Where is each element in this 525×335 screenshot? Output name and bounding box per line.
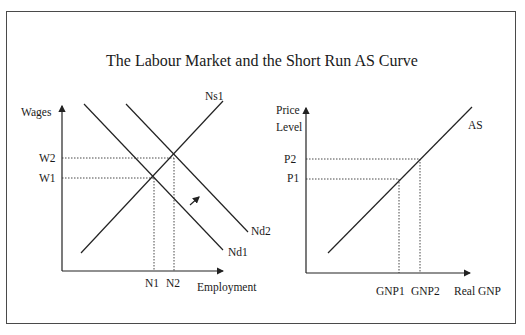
diagram-canvas: The Labour Market and the Short Run AS C… bbox=[0, 0, 525, 335]
diagram-title: The Labour Market and the Short Run AS C… bbox=[106, 52, 418, 69]
nd2-label: Nd2 bbox=[251, 225, 271, 237]
short-run-as-chart: Price Level Real GNP P2 P1 GNP1 GNP2 AS bbox=[276, 104, 501, 297]
wages-axis-label: Wages bbox=[21, 106, 52, 119]
n2-label: N2 bbox=[166, 277, 180, 289]
w2-label: W2 bbox=[39, 152, 56, 164]
price-axis-label-line1: Price bbox=[276, 104, 300, 116]
ns1-label: Ns1 bbox=[205, 90, 224, 102]
as-curve bbox=[328, 107, 472, 253]
gnp1-label: GNP1 bbox=[376, 285, 405, 297]
p1-label: P1 bbox=[287, 172, 299, 184]
demand-shift-arrow-icon bbox=[190, 197, 199, 205]
real-gnp-axis-label: Real GNP bbox=[454, 285, 501, 297]
nd1-label: Nd1 bbox=[228, 246, 248, 258]
as-label: AS bbox=[468, 119, 483, 131]
p2-label: P2 bbox=[284, 153, 296, 165]
gnp2-label: GNP2 bbox=[411, 285, 440, 297]
employment-axis-label: Employment bbox=[197, 281, 257, 294]
price-axis-label-line2: Level bbox=[276, 121, 302, 133]
w1-label: W1 bbox=[39, 172, 56, 184]
labour-market-chart: Wages Employment W2 W1 N1 N2 Ns1 Nd1 Nd2 bbox=[21, 90, 271, 294]
n1-label: N1 bbox=[145, 277, 159, 289]
